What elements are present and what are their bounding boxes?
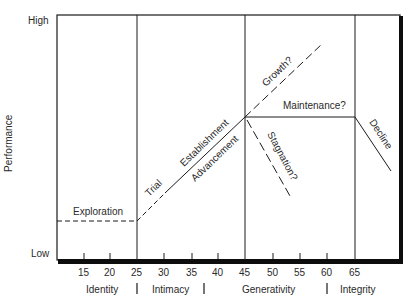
tick-55: 55 [294, 267, 306, 278]
tick-35: 35 [186, 267, 198, 278]
tick-30: 30 [158, 267, 170, 278]
tick-25: 25 [131, 267, 143, 278]
y-axis-title: Performance [3, 114, 14, 172]
stage-integrity: Integrity [340, 284, 376, 295]
tick-40: 40 [212, 267, 224, 278]
x-tick-labels: 15 20 25 30 35 40 45 50 55 60 65 [78, 267, 361, 278]
label-growth: Growth? [260, 54, 295, 88]
x-ticks [84, 253, 327, 259]
stage-identity: Identity [86, 284, 118, 295]
label-trial: Trial [143, 177, 164, 198]
advancement-line [165, 117, 245, 193]
label-exploration: Exploration [73, 206, 123, 217]
y-low-label: Low [31, 248, 50, 259]
label-maintenance: Maintenance? [283, 100, 346, 111]
tick-45: 45 [239, 267, 251, 278]
label-advancement: Advancement [189, 133, 241, 184]
tick-15: 15 [78, 267, 90, 278]
y-high-label: High [28, 15, 49, 26]
label-decline: Decline [367, 117, 395, 151]
career-stage-diagram: High Low Performance 15 20 25 30 35 40 4… [0, 0, 410, 302]
frame-shadow-right [399, 16, 403, 264]
stage-generativity: Generativity [242, 284, 295, 295]
tick-50: 50 [267, 267, 279, 278]
label-stagnation: Stagnation? [265, 130, 300, 183]
frame-shadow-bottom [58, 259, 403, 264]
tick-65: 65 [349, 267, 361, 278]
tick-60: 60 [321, 267, 333, 278]
tick-20: 20 [104, 267, 116, 278]
stage-intimacy: Intimacy [152, 284, 189, 295]
